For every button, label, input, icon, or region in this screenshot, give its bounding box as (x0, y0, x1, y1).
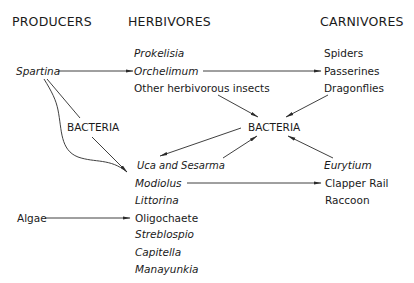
herbivore-prokelisia: Prokelisia (134, 48, 184, 59)
producer-spartina: Spartina (16, 66, 60, 77)
header-carnivores: CARNIVORES (320, 16, 404, 29)
arrow-bacteria-uca (160, 128, 241, 156)
herbivore-capitella: Capitella (135, 247, 181, 258)
arrow-uca-bacteria (223, 136, 257, 158)
carnivore-raccoon: Raccoon (325, 195, 370, 206)
header-producers: PRODUCERS (12, 16, 92, 29)
connector-layer (0, 0, 414, 283)
herbivore-oligochaete: Oligochaete (135, 213, 198, 224)
carnivore-dragonflies: Dragonflies (324, 83, 384, 94)
herbivore-modiolus: Modiolus (135, 178, 182, 189)
carnivore-spiders: Spiders (324, 48, 363, 59)
food-web-diagram: PRODUCERS HERBIVORES CARNIVORES Spartina… (0, 0, 414, 283)
carnivore-passerines: Passerines (324, 66, 380, 77)
bacteria-left: BACTERIA (67, 122, 119, 133)
bacteria-center: BACTERIA (248, 122, 300, 133)
herbivore-other-insects: Other herbivorous insects (134, 83, 270, 94)
herbivore-littorina: Littorina (135, 195, 179, 206)
arrow-eurytium-bacteria (288, 136, 333, 158)
arrow-dragonflies-bacteria (286, 95, 328, 117)
producer-algae: Algae (17, 213, 47, 224)
herbivore-uca-sesarma: Uca and Sesarma (137, 161, 225, 171)
herbivore-orchelimum: Orchelimum (134, 66, 198, 77)
carnivore-clapper-rail: Clapper Rail (325, 178, 388, 189)
arrow-insects-bacteria (218, 95, 258, 117)
arrow-bacteria-left-modiolus (92, 137, 127, 172)
herbivore-manayunkia: Manayunkia (135, 264, 199, 275)
herbivore-streblospio: Streblospio (135, 229, 194, 240)
carnivore-eurytium: Eurytium (324, 160, 372, 171)
line-spartina-bacteria-left (47, 79, 80, 118)
header-herbivores: HERBIVORES (128, 16, 211, 29)
